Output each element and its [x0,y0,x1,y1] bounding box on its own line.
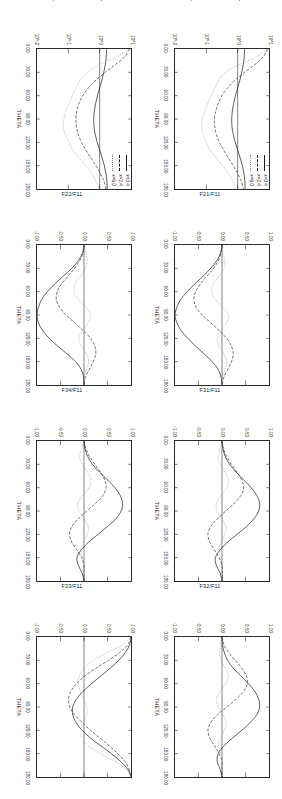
x-tick-label: 90.00 [25,505,30,517]
x-tick-label: 0.00 [25,240,30,249]
y-tick-label: 0.00 [220,232,225,243]
x-tick-label: 150.00 [25,747,30,761]
y-axis-label: F33/F11 [27,583,117,589]
legend-line-swatch [250,155,251,171]
y-tick-label: 0.00 [82,428,87,439]
y-tick-label: 1.00 [268,428,273,439]
x-tick-label: 120.00 [163,528,168,542]
x-tick-label: 60.00 [25,678,30,690]
y-tick-label: 1.00 [130,624,135,635]
x-tick-label: 30.00 [25,654,30,666]
x-axis-label: THETA [154,48,160,190]
x-tick-label: 90.00 [163,309,168,321]
x-tick-label: 30.00 [163,654,168,666]
x-tick-label: 120.00 [25,332,30,346]
y-tick-label: -1.00 [172,231,177,243]
y-tick-label: -1.00 [172,623,177,635]
x-axis-label: THETA [154,636,160,778]
legend-item: x=0.4 [123,155,130,186]
x-tick-label: 60.00 [25,90,30,102]
y-tick-label: -0.50 [196,427,201,439]
y-axis-label: F21/F11 [165,191,255,197]
x-tick-label: 0.00 [163,436,168,445]
plot-area-f31-f11-top [174,440,270,582]
legend-line-swatch [119,155,120,171]
x-tick-label: 60.00 [163,90,168,102]
x-tick-label: 30.00 [163,458,168,470]
y-tick-label: 0.50 [244,624,249,635]
x-axis-label: THETA [16,244,22,386]
y-tick-label: 10^0 [236,35,241,47]
y-tick-label: 1.00 [268,624,273,635]
x-tick-label: 60.00 [25,286,30,298]
x-tick-label: 0.00 [163,44,168,53]
x-tick-label: 90.00 [25,309,30,321]
y-tick-label: 1.00 [130,232,135,243]
y-axis-label: LOG(PHASE FUNCTION) [145,0,275,1]
legend-item: x=0.4 [261,155,268,186]
x-tick-label: 60.00 [163,286,168,298]
x-axis-label: THETA [16,48,22,190]
x-tick-label: 150.00 [163,551,168,565]
y-tick-label: 10^1 [268,35,273,47]
x-tick-label: 30.00 [163,262,168,274]
x-tick-label: 30.00 [25,262,30,274]
y-tick-label: 1.00 [268,232,273,243]
x-tick-label: 30.00 [163,66,168,78]
x-tick-label: 60.00 [163,482,168,494]
legend-line-swatch [126,155,127,171]
y-tick-label: 10^-1 [204,34,209,47]
legend: x=0.4x=2.4x=6.0 [109,155,130,186]
y-tick-label: 0.50 [106,428,111,439]
plot-panel-phase-function-bottom: 10^-210^-110^010^10.0030.0060.0090.00120… [6,14,138,196]
y-tick-label: 0.00 [82,624,87,635]
y-tick-label: -1.00 [34,231,39,243]
x-tick-label: 30.00 [25,458,30,470]
x-tick-label: 0.00 [163,240,168,249]
plot-grid: 10^-210^-110^010^10.0030.0060.0090.00120… [6,14,276,784]
legend-item-label: x=0.4 [261,174,268,186]
plot-panel-phase-function-top: 10^-210^-110^010^10.0030.0060.0090.00120… [144,14,276,196]
x-tick-label: 0.00 [25,436,30,445]
x-tick-label: 30.00 [25,66,30,78]
x-axis-label: THETA [16,636,22,778]
plot-area-f34-f11-bottom [36,440,132,582]
legend-item: x=6.0 [109,155,116,186]
plot-panel-f21-f11-top: -1.00-0.500.000.501.000.0030.0060.0090.0… [144,210,276,392]
y-tick-label: 10^-2 [34,34,39,47]
x-tick-label: 120.00 [25,724,30,738]
plot-panel-f34-f11-bottom: -1.00-0.500.000.501.000.0030.0060.0090.0… [6,406,138,588]
legend: x=0.4x=2.4x=6.0 [247,155,268,186]
plot-panel-f32-f11-top: -1.00-0.500.000.501.000.0030.0060.0090.0… [144,602,276,784]
x-tick-label: 120.00 [25,136,30,150]
y-tick-label: 0.50 [106,232,111,243]
y-tick-label: 10^-2 [172,34,177,47]
y-tick-label: 0.00 [220,428,225,439]
x-tick-label: 150.00 [163,355,168,369]
y-tick-label: 1.00 [130,428,135,439]
legend-item-label: x=6.0 [247,174,254,186]
x-tick-label: 60.00 [25,482,30,494]
legend-line-swatch [264,155,265,171]
x-tick-label: 180.00 [163,771,168,785]
y-tick-label: 0.00 [220,624,225,635]
y-tick-label: 10^1 [130,35,135,47]
y-axis-label: LOG(PHASE FUNCTION) [7,0,137,1]
y-tick-label: 10^-1 [66,34,71,47]
x-axis-label: THETA [154,244,160,386]
plot-panel-f22-f11-bottom: -1.00-0.500.000.501.000.0030.0060.0090.0… [6,210,138,392]
x-axis-label: THETA [154,440,160,582]
plot-panel-f31-f11-top: -1.00-0.500.000.501.000.0030.0060.0090.0… [144,406,276,588]
x-tick-label: 150.00 [25,551,30,565]
legend-item: x=6.0 [247,155,254,186]
y-tick-label: 0.50 [244,232,249,243]
x-tick-label: 120.00 [25,528,30,542]
y-axis-label: F34/F11 [27,387,117,393]
x-tick-label: 0.00 [25,44,30,53]
x-tick-label: 0.00 [25,632,30,641]
legend-item-label: x=2.4 [254,174,261,186]
y-axis-label: F31/F11 [165,387,255,393]
x-tick-label: 90.00 [163,113,168,125]
x-tick-label: 150.00 [25,355,30,369]
y-tick-label: -0.50 [58,623,63,635]
